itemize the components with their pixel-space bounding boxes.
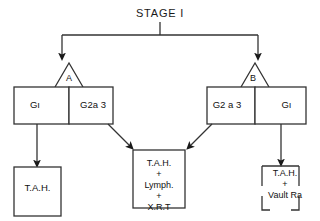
outcome-label-tah-left: T.A.H.: [14, 183, 61, 193]
stage-i-treatment-flowchart: STAGE I A B Gı G2a 3 G2 a 3 Gı T.A.H. T.…: [0, 0, 320, 221]
arrow-g2a3-right-to-center: [189, 124, 212, 147]
node-label-g2a3-left: G2a 3: [74, 100, 112, 110]
node-label-g1-right: Gı: [267, 100, 306, 110]
branch-label-b: B: [243, 74, 263, 83]
node-label-g1-left: Gı: [14, 100, 56, 110]
node-label-g2a3-right: G2 a 3: [207, 100, 247, 110]
page-title: STAGE I: [0, 8, 320, 19]
outcome-label-center: T.A.H. + Lymph. + X.R.T: [128, 158, 190, 213]
outcome-label-right: T.A.H. + Vault Ra: [256, 168, 314, 201]
arrow-g2a3-left-to-center: [108, 124, 131, 147]
branch-label-a: A: [59, 74, 79, 83]
